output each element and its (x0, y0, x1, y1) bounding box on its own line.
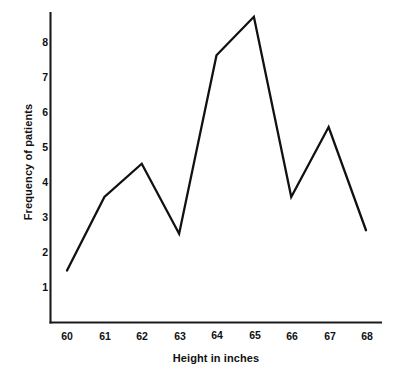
chart-figure: Frequency of patients 8 7 6 5 4 3 2 1 60… (0, 0, 398, 375)
plot-area (0, 0, 398, 375)
data-series-line (67, 17, 366, 271)
